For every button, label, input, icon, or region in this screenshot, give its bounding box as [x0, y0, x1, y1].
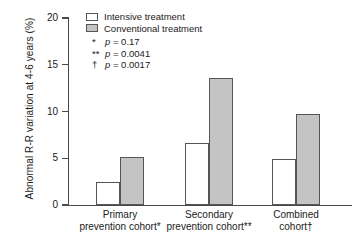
y-tick-label-15: 15: [18, 60, 58, 70]
y-tick-5: [62, 158, 68, 159]
note-value-combined: = 0.0017: [110, 59, 150, 70]
y-tick-0: [62, 204, 68, 205]
y-axis-line: [68, 17, 69, 206]
x-category-line1: Combined: [216, 209, 363, 221]
x-category-label-3: Combinedcohort†: [216, 209, 363, 234]
y-tick-label-5: 5: [18, 153, 58, 163]
bar-conventional-group-1: [120, 157, 144, 205]
note-mark-combined: †: [92, 59, 105, 71]
legend-label-intensive: Intensive treatment: [104, 11, 185, 23]
legend-item-intensive: Intensive treatment: [86, 11, 202, 23]
chart-figure: Abnormal R-R variation at 4-6 years (%) …: [0, 0, 363, 247]
bar-conventional-group-2: [209, 78, 233, 205]
legend-swatch-intensive-icon: [86, 13, 98, 21]
y-tick-10: [62, 111, 68, 112]
bar-intensive-group-3: [272, 159, 296, 205]
note-mark-primary: *: [92, 36, 105, 48]
y-tick-20: [62, 17, 68, 18]
y-tick-label-10: 10: [18, 107, 58, 117]
legend-item-conventional: Conventional treatment: [86, 23, 202, 35]
bar-intensive-group-1: [96, 182, 120, 205]
legend-label-conventional: Conventional treatment: [104, 23, 202, 35]
chart-legend: Intensive treatment Conventional treatme…: [86, 11, 202, 34]
significance-notes: * p = 0.17 ** p = 0.0041 † p = 0.0017: [92, 36, 150, 71]
note-text-secondary: p = 0.0041: [105, 48, 150, 60]
note-row-combined: † p = 0.0017: [92, 59, 150, 71]
x-category-line2: cohort†: [216, 221, 363, 233]
y-tick-label-20: 20: [18, 13, 58, 23]
note-mark-secondary: **: [92, 48, 105, 60]
y-tick-15: [62, 64, 68, 65]
note-value-primary: = 0.17: [110, 36, 139, 47]
bar-conventional-group-3: [296, 114, 320, 205]
note-row-secondary: ** p = 0.0041: [92, 48, 150, 60]
legend-swatch-conventional-icon: [86, 24, 98, 32]
bar-intensive-group-2: [185, 143, 209, 205]
note-value-secondary: = 0.0041: [110, 48, 150, 59]
note-text-primary: p = 0.17: [105, 36, 140, 48]
note-text-combined: p = 0.0017: [105, 59, 150, 71]
note-row-primary: * p = 0.17: [92, 36, 150, 48]
